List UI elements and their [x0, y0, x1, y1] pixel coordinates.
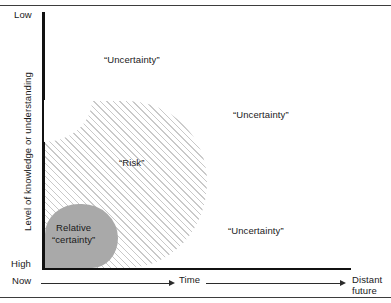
y-axis-bottom-label: High [11, 258, 31, 269]
y-axis-title: Level of knowledge or understanding [22, 62, 33, 242]
region-label-uncertainty-right-lower: “Uncertainty” [228, 225, 284, 237]
x-axis-mid-label: Time [179, 274, 200, 285]
region-label-uncertainty-top-left: “Uncertainty” [104, 54, 160, 66]
region-label-relative-certainty-line1: Relative [56, 222, 91, 233]
bottom-divider-rule [0, 297, 391, 298]
top-divider-rule [0, 5, 391, 6]
x-axis-end-label: Distant future [352, 274, 382, 296]
time-arrow-left [41, 280, 175, 287]
region-label-relative-certainty: Relative “certainty” [52, 222, 95, 245]
time-arrow-left-shaft [41, 283, 169, 284]
y-axis-top-label: Low [14, 9, 32, 20]
region-label-uncertainty-right-upper: “Uncertainty” [233, 109, 289, 121]
region-label-relative-certainty-line2: “certainty” [52, 234, 95, 246]
time-arrow-right-shaft [206, 283, 340, 284]
x-axis-start-label: Now [12, 275, 31, 286]
arrow-head-icon [340, 280, 346, 286]
x-axis-end-label-line1: Distant [352, 274, 382, 285]
knowledge-vs-time-diagram: Level of knowledge or understanding Low … [0, 0, 391, 303]
time-arrow-right [206, 280, 346, 287]
arrow-head-icon [169, 280, 175, 286]
x-axis-end-label-line2: future [352, 285, 382, 296]
region-label-risk: “Risk” [119, 157, 144, 169]
